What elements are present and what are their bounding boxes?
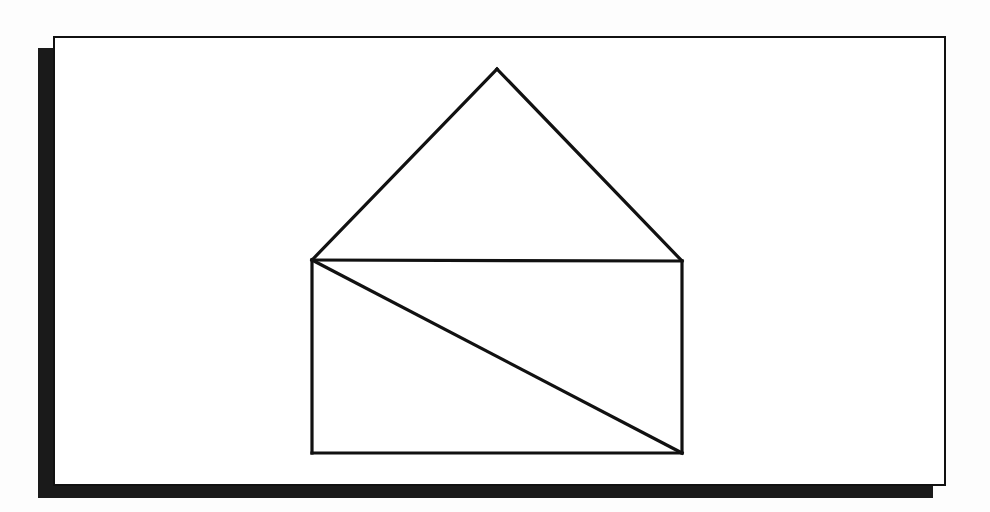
frame-shadow-left-band xyxy=(38,48,53,498)
eave-line xyxy=(312,260,682,261)
figure-canvas xyxy=(0,0,990,512)
canvas-root: Envelope / House Line Figure A square wi… xyxy=(0,0,990,512)
frame-shadow-bottom-band xyxy=(38,485,933,498)
